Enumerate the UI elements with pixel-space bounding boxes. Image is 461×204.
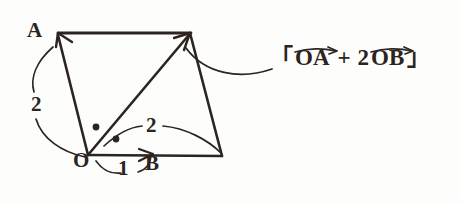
- vector-arrow-overline-oa: [294, 46, 338, 55]
- vector-diagram-figure: A O B 2 1 2 「 OA + 2 OB 」: [0, 0, 461, 204]
- point-label-b: B: [145, 153, 159, 174]
- formula-open-bracket: 「: [270, 46, 293, 69]
- formula-expression: 「 OA + 2 OB 」: [270, 46, 430, 69]
- vector-sum-shaft: [88, 36, 188, 155]
- formula-coefficient: 2: [358, 46, 370, 69]
- vector-ob-term: OB: [370, 46, 405, 69]
- arc-ob-scalar-right: [163, 126, 221, 153]
- diagram-canvas: [0, 0, 461, 204]
- angle-dot-between-oa-and-sum: [93, 124, 100, 131]
- edge-2b-to-sum: [190, 33, 222, 156]
- vector-oa-term: OA: [294, 46, 331, 69]
- point-label-a: A: [27, 20, 42, 41]
- formula-plus-operator: +: [338, 46, 351, 69]
- vector-arrow-overline-ob: [370, 46, 414, 55]
- vector-oa-shaft: [58, 35, 88, 155]
- point-label-o: O: [73, 150, 89, 171]
- arc-oa-scalar-upper: [33, 47, 53, 92]
- scalar-label-ob-unit: 1: [118, 158, 129, 179]
- scalar-label-oa: 2: [31, 94, 42, 115]
- scalar-label-ob: 2: [146, 115, 157, 136]
